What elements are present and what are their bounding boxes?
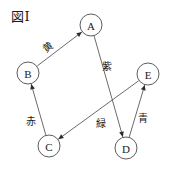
arrowhead-b-to-a-icon — [76, 32, 82, 37]
node-label-c: C — [45, 141, 52, 153]
arrowhead-e-to-c-icon — [58, 134, 64, 139]
nodes-layer: ABCDE — [17, 14, 159, 159]
edge-labels-layer: 黄紫赤緑青 — [26, 39, 148, 129]
directed-graph-canvas: ABCDE 黄紫赤緑青 — [0, 0, 172, 170]
graph-edge-e-c — [58, 81, 138, 139]
node-label-b: B — [24, 68, 31, 80]
node-label-a: A — [87, 20, 95, 32]
graph-edge-c-b — [31, 84, 46, 135]
graph-node-e[interactable]: E — [137, 63, 159, 85]
graph-node-c[interactable]: C — [38, 135, 60, 157]
node-label-e: E — [145, 69, 152, 81]
edge-label-blue: 青 — [138, 112, 148, 124]
edge-label-yellow: 黄 — [40, 39, 55, 55]
node-label-d: D — [122, 143, 130, 155]
graph-node-a[interactable]: A — [80, 14, 102, 36]
edge-label-green: 緑 — [96, 117, 106, 129]
graph-node-b[interactable]: B — [17, 62, 39, 84]
edge-label-red: 赤 — [26, 116, 36, 127]
graph-edge-d-e — [129, 85, 144, 137]
graph-node-d[interactable]: D — [115, 137, 137, 159]
figure-panel: 図Ⅰ ABCDE 黄紫赤緑青 — [0, 0, 172, 170]
edge-label-purple: 紫 — [102, 61, 112, 72]
